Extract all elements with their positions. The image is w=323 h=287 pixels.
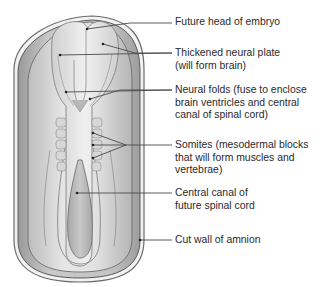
label-text: Central canal of — [175, 187, 255, 200]
label-text: brain ventricles and central — [175, 97, 307, 110]
label-text: Thickened neural plate — [175, 47, 280, 60]
label-text: Neural folds (fuse to enclose — [175, 84, 307, 97]
label-text: Cut wall of amnion — [175, 234, 260, 247]
label-text: (will form brain) — [175, 60, 280, 73]
label-text: Future head of embryo — [175, 16, 280, 29]
label-somites: Somites (mesodermal blocks that will for… — [175, 139, 308, 177]
label-future-head: Future head of embryo — [175, 16, 280, 29]
label-neural-folds: Neural folds (fuse to enclose brain vent… — [175, 84, 307, 122]
label-text: future spinal cord — [175, 200, 255, 213]
label-amnion: Cut wall of amnion — [175, 234, 260, 247]
label-neural-plate: Thickened neural plate (will form brain) — [175, 47, 280, 72]
label-text: vertebrae) — [175, 164, 308, 177]
label-central-canal: Central canal of future spinal cord — [175, 187, 255, 212]
label-text: Somites (mesodermal blocks — [175, 139, 308, 152]
label-text: that will form muscles and — [175, 152, 308, 165]
label-text: canal of spinal cord) — [175, 109, 307, 122]
